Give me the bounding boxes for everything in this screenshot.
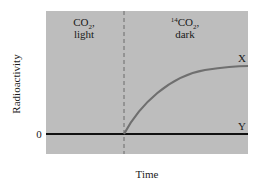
chart: CO2, light 14CO2, dark X Y 0 Radioactivi… xyxy=(0,0,264,189)
svg-text:dark: dark xyxy=(175,28,195,40)
region-label-light: CO2, light xyxy=(73,16,95,40)
y-axis-label: Radioactivity xyxy=(10,54,22,114)
svg-text:light: light xyxy=(74,28,94,40)
x-axis-label: Time xyxy=(136,168,159,180)
series-label-x: X xyxy=(238,52,246,64)
y-tick-zero: 0 xyxy=(36,128,42,140)
series-label-y: Y xyxy=(238,120,246,132)
